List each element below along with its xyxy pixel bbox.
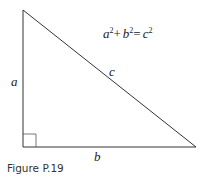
side-label-b: b [94,149,101,164]
right-angle-marker [23,134,36,147]
side-label-c: c [109,64,115,79]
svg-text:a2+b2=c2: a2+b2=c2 [103,26,152,41]
side-label-a: a [11,74,18,89]
triangle-diagram: a b c a2+b2=c2 [0,0,206,180]
pythagorean-equation: a2+b2=c2 [103,26,152,41]
figure-caption: Figure P.19 [7,162,64,174]
